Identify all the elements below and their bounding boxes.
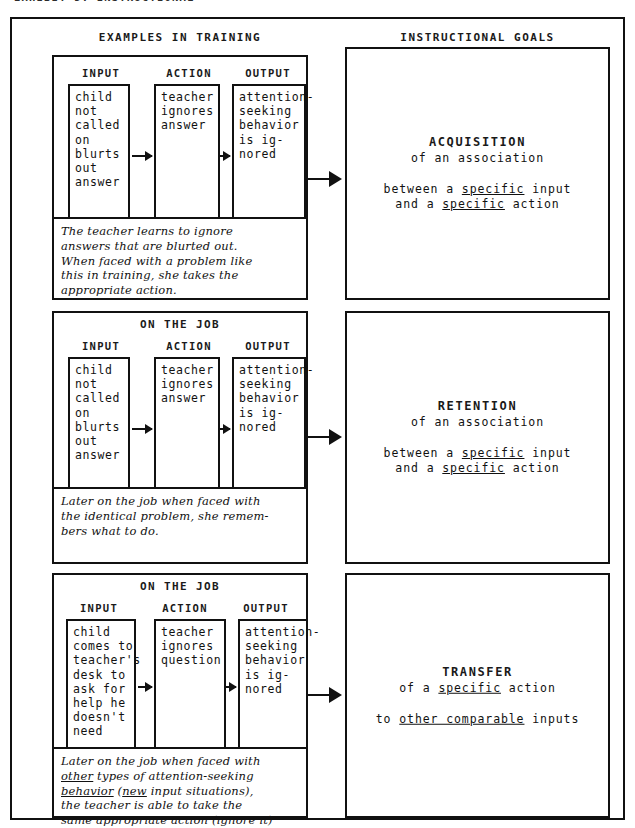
caption-emphasis: behavior <box>61 784 114 798</box>
column-label-action-3: ACTION <box>146 602 224 614</box>
cell-input-3: child comes to teacher's desk to ask for… <box>66 619 136 755</box>
caption-line: this in training, she takes the <box>61 268 300 283</box>
caption-line: Later on the job when faced with <box>61 494 300 509</box>
example-caption-1: The teacher learns to ignore answers tha… <box>52 217 308 300</box>
goal-content-3: TRANSFER of a specific action to other c… <box>347 664 608 727</box>
caption-line: other types of attention-seeking <box>61 769 300 784</box>
caption-line-mid: ( <box>114 784 123 798</box>
goal-detail-pre: and a <box>395 197 442 211</box>
goal-detail-emphasis: specific <box>442 461 505 475</box>
caption-line: bers what to do. <box>61 524 300 539</box>
arrow-input-to-action-2 <box>132 428 152 430</box>
cell-action-1: teacher ignores answer <box>154 84 220 230</box>
column-label-input-3: INPUT <box>60 602 138 614</box>
caption-line: appropriate action. <box>61 283 300 298</box>
goal-detail-pre: between a <box>384 446 462 460</box>
goal-box-retention: RETENTION of an association between a sp… <box>345 311 610 564</box>
arrow-action-to-output-3 <box>226 686 236 688</box>
example-caption-2: Later on the job when faced with the ide… <box>52 487 308 564</box>
caption-line: behavior (new input situations), <box>61 784 300 799</box>
goal-detail-1: between a specific input and a specific … <box>347 182 608 213</box>
column-label-input-2: INPUT <box>62 340 140 352</box>
goal-detail-post: action <box>505 461 560 475</box>
goal-sub-pre: of a <box>399 680 438 694</box>
column-label-action-1: ACTION <box>150 67 228 79</box>
example-caption-3: Later on the job when faced with other t… <box>52 747 308 818</box>
arrow-input-to-action-3 <box>138 686 152 688</box>
column-heading-examples: EXAMPLES IN TRAINING <box>52 31 308 44</box>
cell-action-2: teacher ignores answer <box>154 357 220 503</box>
caption-line: The teacher learns to ignore <box>61 224 300 239</box>
column-label-action-2: ACTION <box>150 340 228 352</box>
goal-sub-emphasis: specific <box>438 680 501 694</box>
on-the-job-label-3: ON THE JOB <box>54 580 306 593</box>
goal-detail-post: action <box>505 197 560 211</box>
caption-line: same appropriate action (ignore it) <box>61 813 300 828</box>
caption-line: answers that are blurted out. <box>61 239 300 254</box>
goal-detail-emphasis: specific <box>462 446 525 460</box>
arrow-input-to-action-1 <box>132 155 152 157</box>
goal-detail-post: input <box>524 182 571 196</box>
arrow-action-to-output-1 <box>220 155 230 157</box>
goal-detail-post: input <box>524 446 571 460</box>
column-heading-goals: INSTRUCTIONAL GOALS <box>345 31 610 44</box>
goal-detail-pre: between a <box>384 182 462 196</box>
goal-detail-2: between a specific input and a specific … <box>347 446 608 477</box>
goal-detail-line: between a specific input <box>347 446 608 462</box>
caption-line: the teacher is able to take the <box>61 798 300 813</box>
caption-line: the identical problem, she remem- <box>61 509 300 524</box>
goal-detail-emphasis: other comparable <box>399 711 524 725</box>
goal-detail-line: and a specific action <box>347 461 608 477</box>
column-label-output-2: OUTPUT <box>230 340 306 352</box>
caption-line: Later on the job when faced with <box>61 754 300 769</box>
goal-detail-emphasis: specific <box>462 182 525 196</box>
on-the-job-label-2: ON THE JOB <box>54 318 306 331</box>
goal-detail-line: and a specific action <box>347 197 608 213</box>
goal-title-2: RETENTION <box>347 399 608 413</box>
caption-emphasis: new <box>122 784 147 798</box>
caption-line-rest: input situations), <box>147 784 254 798</box>
column-label-output-1: OUTPUT <box>230 67 306 79</box>
caption-line: When faced with a problem like <box>61 254 300 269</box>
goal-detail-post: inputs <box>524 711 579 725</box>
goal-detail-line: to other comparable inputs <box>347 711 608 727</box>
cell-output-1: attention- seeking behavior is ig- nored <box>232 84 306 230</box>
arrow-action-to-output-2 <box>220 428 230 430</box>
caption-line-rest: types of attention-seeking <box>93 769 254 783</box>
goal-box-acquisition: ACQUISITION of an association between a … <box>345 47 610 300</box>
cell-input-1: child not called on blurts out answer <box>68 84 130 230</box>
goal-detail-pre: to <box>376 711 399 725</box>
cropped-exhibit-caption-text: EXHIBIT 5: INSTRUCTIONAL <box>14 0 195 3</box>
goal-detail-3: to other comparable inputs <box>347 711 608 727</box>
cell-action-3: teacher ignores question <box>154 619 226 755</box>
goal-subtitle-3: of a specific action <box>347 680 608 694</box>
goal-title-3: TRANSFER <box>347 664 608 678</box>
goal-content-1: ACQUISITION of an association between a … <box>347 135 608 213</box>
goal-subtitle-1: of an association <box>347 151 608 165</box>
goal-detail-pre: and a <box>395 461 442 475</box>
goal-sub-post: action <box>501 680 556 694</box>
arrow-example-to-goal-1 <box>308 178 340 180</box>
cell-input-2: child not called on blurts out answer <box>68 357 130 503</box>
cropped-exhibit-caption: EXHIBIT 5: INSTRUCTIONAL <box>14 0 314 9</box>
goal-box-transfer: TRANSFER of a specific action to other c… <box>345 573 610 818</box>
cell-output-3: attention- seeking behavior is ig- nored <box>238 619 308 755</box>
column-label-input-1: INPUT <box>62 67 140 79</box>
goal-subtitle-2: of an association <box>347 415 608 429</box>
goal-content-2: RETENTION of an association between a sp… <box>347 399 608 477</box>
arrow-example-to-goal-3 <box>308 694 340 696</box>
arrow-example-to-goal-2 <box>308 436 340 438</box>
cell-output-2: attention- seeking behavior is ig- nored <box>232 357 306 503</box>
goal-detail-line: between a specific input <box>347 182 608 198</box>
goal-detail-emphasis: specific <box>442 197 505 211</box>
column-label-output-3: OUTPUT <box>228 602 304 614</box>
caption-emphasis: other <box>61 769 93 783</box>
goal-title-1: ACQUISITION <box>347 135 608 149</box>
